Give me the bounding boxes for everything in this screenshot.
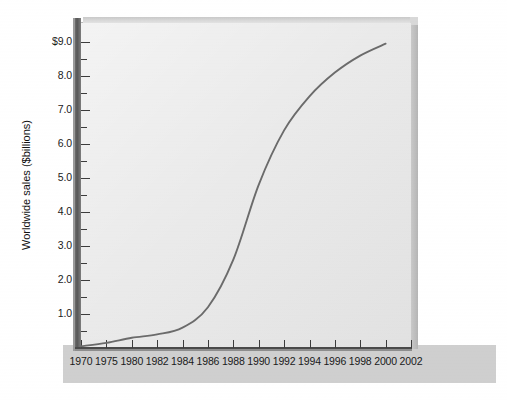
y-axis-tick-label: 1.0: [38, 307, 72, 319]
x-axis-tick-label: 1980: [120, 355, 143, 367]
x-axis-tick-label: 1975: [95, 355, 118, 367]
x-axis-tick-label: 1984: [171, 355, 194, 367]
y-axis-tick-label: $9.0: [38, 35, 72, 47]
x-axis-tick-label: 1998: [349, 355, 372, 367]
y-axis-tick-label: 5.0: [38, 171, 72, 183]
x-axis-tick-label: 1982: [146, 355, 169, 367]
x-axis-tick-label: 1970: [70, 355, 93, 367]
x-axis-spine-shadow: [75, 349, 412, 351]
y-axis-tick-label: 4.0: [38, 205, 72, 217]
x-axis-tick-label: 1988: [222, 355, 245, 367]
plot-panel-right-bevel: [410, 19, 418, 349]
chart-figure: $9.08.07.06.05.04.03.02.01.0 19701975198…: [0, 0, 507, 400]
x-axis-tick: [411, 340, 412, 348]
x-axis-tick-label: 1994: [298, 355, 321, 367]
y-axis-tick-label: 7.0: [38, 103, 72, 115]
x-axis-tick-label: 2002: [400, 355, 423, 367]
y-axis-title: Worldwide sales ($billions): [20, 20, 32, 350]
x-axis-tick-label: 1986: [197, 355, 220, 367]
x-axis-tick-label: 1990: [247, 355, 270, 367]
y-axis-tick-label: 3.0: [38, 239, 72, 251]
x-axis-tick-label: 1996: [323, 355, 346, 367]
y-axis-tick-label: 8.0: [38, 69, 72, 81]
x-axis-tick-label: 2000: [374, 355, 397, 367]
x-axis-tick-label: 1992: [273, 355, 296, 367]
y-axis-tick-label: 6.0: [38, 137, 72, 149]
series-line-layer: [79, 23, 411, 349]
plot-panel-corner-bevel: [410, 17, 418, 25]
y-axis-tick-label: 2.0: [38, 273, 72, 285]
series-line-worldwide-sales: [81, 44, 386, 347]
y-axis-tick-labels: $9.08.07.06.05.04.03.02.01.0: [26, 0, 72, 400]
